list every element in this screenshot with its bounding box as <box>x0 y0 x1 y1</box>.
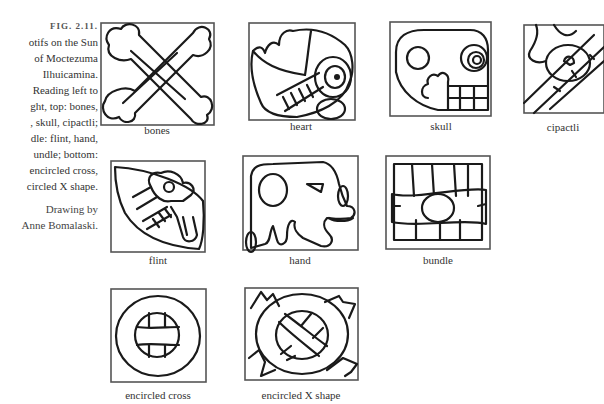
motif-label-heart: heart <box>290 120 312 132</box>
motif-label-encircled-cross: encircled cross <box>125 389 191 401</box>
caption-line: Reading left to <box>0 82 98 98</box>
figure-caption: FIG. 2.11. otifs on the Sun of Moctezuma… <box>0 18 98 233</box>
bones-icon <box>101 23 214 125</box>
motif-label-flint: flint <box>149 254 167 266</box>
motif-label-bundle: bundle <box>423 254 453 266</box>
caption-line: circled X shape. <box>0 178 98 194</box>
caption-line: of Moctezuma <box>0 50 98 66</box>
encircled-cross-icon <box>111 289 206 382</box>
caption-line: undle; bottom: <box>0 146 98 162</box>
cipactli-icon <box>524 25 604 113</box>
hand-icon <box>243 156 358 250</box>
motif-label-encircled-x: encircled X shape <box>262 389 341 401</box>
caption-line: Ilhuicamina. <box>0 66 98 82</box>
caption-line: , skull, cipactli; <box>0 114 98 130</box>
caption-line: encircled cross, <box>0 162 98 178</box>
bundle-icon <box>386 156 490 249</box>
motif-label-skull: skull <box>430 120 451 132</box>
motif-label-hand: hand <box>289 254 310 266</box>
credit-line: Drawing by <box>0 201 98 217</box>
flint-icon <box>111 161 205 252</box>
caption-line: dle: flint, hand, <box>0 130 98 146</box>
caption-line: ght, top: bones, <box>0 98 98 114</box>
figure-number: FIG. 2.11. <box>0 18 98 34</box>
heart-icon <box>249 23 355 120</box>
skull-icon <box>390 22 491 116</box>
caption-line: otifs on the Sun <box>0 34 98 50</box>
motif-label-bones: bones <box>144 124 170 136</box>
motif-label-cipactli: cipactli <box>547 121 579 133</box>
drawing-credit: Drawing by Anne Bomalaski. <box>0 201 98 233</box>
encircled-x-icon <box>245 288 358 380</box>
credit-line: Anne Bomalaski. <box>0 217 98 233</box>
